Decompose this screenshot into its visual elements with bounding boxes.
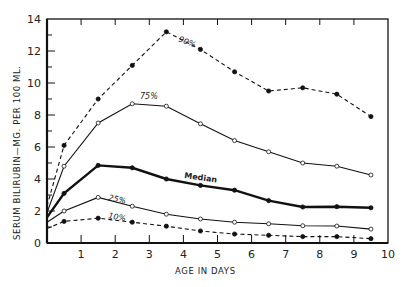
label-25: 25% (108, 193, 127, 206)
plot-frame (47, 19, 388, 243)
data-point (267, 89, 271, 93)
data-point (164, 212, 168, 216)
data-point (369, 227, 373, 231)
data-point (164, 30, 168, 34)
x-tick-label: 2 (112, 248, 119, 261)
data-point (369, 115, 373, 119)
y-tick-label: 4 (34, 173, 41, 186)
y-tick-label: 8 (34, 109, 41, 122)
data-point (62, 143, 66, 147)
y-tick-label: 2 (34, 205, 41, 218)
label-10: 10% (108, 211, 127, 223)
y-axis-title: SERUM BILIRUBIN—MG. PER 100 ML. (12, 65, 22, 240)
data-point (130, 220, 134, 224)
data-point (96, 195, 100, 199)
data-point (164, 224, 168, 228)
y-tick-label: 10 (27, 77, 41, 90)
data-point (164, 104, 168, 108)
y-tick-label: 14 (27, 13, 41, 26)
data-point (335, 164, 339, 168)
data-point (62, 191, 66, 195)
series-lines (47, 30, 373, 241)
series-line-25pct (47, 197, 371, 229)
series-line-10pct (47, 218, 371, 238)
x-axis-title: AGE IN DAYS (175, 266, 236, 276)
data-point (369, 237, 373, 241)
data-point (369, 173, 373, 177)
data-point (62, 164, 66, 168)
x-tick-label: 8 (316, 248, 323, 261)
data-point (198, 229, 202, 233)
data-point (267, 150, 271, 154)
data-point (130, 102, 134, 106)
data-point (232, 232, 236, 236)
data-point (62, 219, 66, 223)
data-point (198, 122, 202, 126)
data-point (267, 199, 271, 203)
data-point (301, 235, 305, 239)
data-point (335, 205, 339, 209)
x-tick-label: 6 (248, 248, 255, 261)
x-tick-label: 10 (381, 248, 395, 261)
data-point (232, 188, 236, 192)
y-tick-label: 0 (34, 237, 41, 250)
data-point (130, 166, 134, 170)
data-point (96, 121, 100, 125)
series-line-median (47, 165, 371, 217)
data-point (130, 204, 134, 208)
data-point (335, 235, 339, 239)
data-point (198, 217, 202, 221)
data-point (130, 63, 134, 67)
data-point (301, 205, 305, 209)
x-tick-label: 5 (214, 248, 221, 261)
data-point (164, 177, 168, 181)
axes: 1234567891002468101214 (27, 13, 395, 261)
data-point (233, 220, 237, 224)
y-tick-label: 6 (34, 141, 41, 154)
x-tick-label: 7 (282, 248, 289, 261)
x-tick-label: 9 (350, 248, 357, 261)
data-point (96, 163, 100, 167)
data-point (96, 97, 100, 101)
data-point (232, 70, 236, 74)
data-point (233, 139, 237, 143)
data-point (96, 216, 100, 220)
x-tick-label: 3 (146, 248, 153, 261)
data-point (369, 206, 373, 210)
data-point (301, 224, 305, 228)
data-point (301, 161, 305, 165)
data-point (198, 47, 202, 51)
data-point (301, 86, 305, 90)
data-point (267, 222, 271, 226)
series-line-75pct (47, 104, 371, 213)
data-point (198, 183, 202, 187)
x-tick-label: 1 (78, 248, 85, 261)
label-75: 75% (140, 92, 158, 101)
label-90: 90% (177, 35, 197, 50)
data-point (335, 92, 339, 96)
data-point (335, 224, 339, 228)
x-tick-label: 4 (180, 248, 187, 261)
bilirubin-chart: 1234567891002468101214 90% 75% Median 25… (0, 0, 406, 287)
data-point (62, 209, 66, 213)
data-point (267, 233, 271, 237)
y-tick-label: 12 (27, 45, 41, 58)
